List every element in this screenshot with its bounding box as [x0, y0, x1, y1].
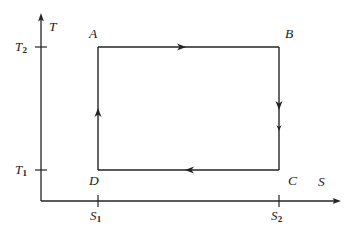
tick-label-t1: T1	[15, 163, 27, 178]
vertex-label-d: D	[89, 174, 99, 188]
tick-label-t1-sub: 1	[23, 168, 28, 178]
cycle-direction-arrows	[95, 44, 283, 174]
ts-diagram-figure: T S T2 T1 S1 S2 A B C D	[0, 0, 356, 229]
diagram-canvas	[0, 0, 356, 229]
tick-label-t2: T2	[15, 40, 27, 55]
tick-label-s2: S2	[271, 209, 282, 224]
tick-label-s1-sub: 1	[97, 214, 102, 224]
tick-label-t2-base: T	[15, 39, 22, 54]
tick-label-s2-base: S	[271, 208, 278, 223]
vertex-label-a: A	[89, 27, 97, 41]
tick-label-t2-sub: 2	[23, 45, 28, 55]
vertex-label-c: C	[288, 174, 297, 188]
s-axis-label: S	[318, 175, 325, 189]
tick-label-s2-sub: 2	[278, 214, 283, 224]
t-axis-label: T	[49, 20, 57, 34]
vertex-label-b: B	[285, 27, 293, 41]
tick-label-s1: S1	[90, 209, 101, 224]
cycle-rectangle	[98, 47, 279, 170]
tick-label-s1-base: S	[90, 208, 97, 223]
tick-label-t1-base: T	[15, 162, 22, 177]
